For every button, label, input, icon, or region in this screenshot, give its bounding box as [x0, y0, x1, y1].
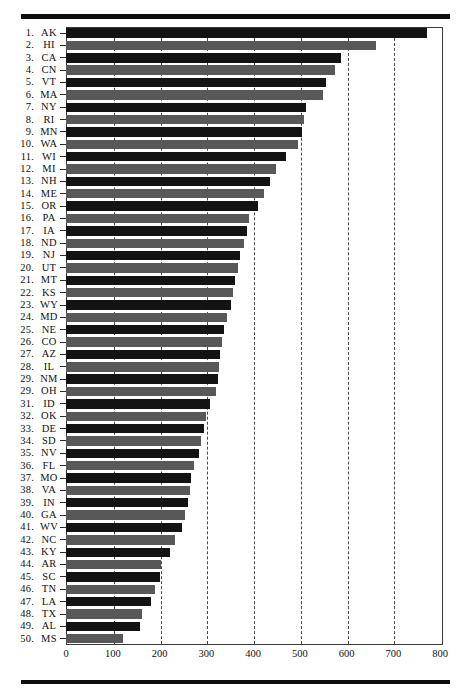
bar-row: 9.MN: [0, 126, 468, 138]
bar: [66, 585, 155, 594]
rank-label: 32.: [8, 410, 34, 422]
bar-row: 14.ME: [0, 188, 468, 200]
category-label: NJ: [38, 249, 60, 261]
bar: [66, 53, 341, 62]
bar-row: 29.NM: [0, 373, 468, 385]
rank-label: 23.: [8, 299, 34, 311]
rank-label: 24.: [8, 311, 34, 323]
bar-row: 45.SC: [0, 571, 468, 583]
bar: [66, 449, 199, 458]
x-axis-tick-labels: 0100200300400500600700800: [0, 647, 468, 665]
rank-label: 1.: [8, 27, 34, 39]
rank-label: 34.: [8, 435, 34, 447]
rank-label: 3.: [8, 52, 34, 64]
rank-label: 18.: [8, 237, 34, 249]
rank-label: 29.: [8, 373, 34, 385]
rank-label: 21.: [8, 274, 34, 286]
x-tick-label-100: 100: [93, 647, 133, 661]
category-label: ID: [38, 398, 60, 410]
bar-row: 5.VT: [0, 76, 468, 88]
bar-row: 48.TX: [0, 608, 468, 620]
x-tick-label-200: 200: [140, 647, 180, 661]
rank-label: 36.: [8, 460, 34, 472]
rank-label: 10.: [8, 138, 34, 150]
bar-rows-group: 1.AK2.HI3.CA4.CN5.VT6.MA7.NY8.RI9.MN10.W…: [0, 27, 468, 645]
bar-row: 1.AK: [0, 27, 468, 39]
rank-label: 33.: [8, 423, 34, 435]
bar-row: 20.UT: [0, 262, 468, 274]
bar: [66, 127, 302, 136]
bar-row: 50.MS: [0, 633, 468, 645]
category-label: UT: [38, 262, 60, 274]
category-label: MN: [38, 126, 60, 138]
rank-label: 5.: [8, 76, 34, 88]
bar: [66, 300, 231, 309]
category-label: OK: [38, 410, 60, 422]
bar-row: 35.NV: [0, 447, 468, 459]
bar: [66, 325, 224, 334]
bar-row: 29.OH: [0, 385, 468, 397]
rank-label: 25.: [8, 324, 34, 336]
bar-row: 11.WI: [0, 151, 468, 163]
bar: [66, 28, 427, 37]
category-label: SC: [38, 571, 60, 583]
rank-label: 42.: [8, 534, 34, 546]
top-horizontal-rule: [21, 14, 450, 19]
bar: [66, 65, 335, 74]
bar: [66, 288, 233, 297]
category-label: HI: [38, 39, 60, 51]
bar-row: 15.OR: [0, 200, 468, 212]
bar: [66, 461, 194, 470]
bar-row: 17.IA: [0, 225, 468, 237]
category-label: AK: [38, 27, 60, 39]
bar: [66, 362, 219, 371]
bar-row: 19.NJ: [0, 249, 468, 261]
rank-label: 40.: [8, 509, 34, 521]
bar-row: 12.MI: [0, 163, 468, 175]
bar-row: 46.TN: [0, 583, 468, 595]
bar: [66, 412, 206, 421]
bar: [66, 78, 326, 87]
bar-row: 27.AZ: [0, 348, 468, 360]
category-label: WY: [38, 299, 60, 311]
bar: [66, 177, 270, 186]
bar-row: 44.AR: [0, 558, 468, 570]
bar: [66, 313, 227, 322]
rank-label: 46.: [8, 583, 34, 595]
rank-label: 28.: [8, 361, 34, 373]
bar-row: 13.NH: [0, 175, 468, 187]
rank-label: 44.: [8, 558, 34, 570]
bar: [66, 115, 304, 124]
bar-row: 34.SD: [0, 435, 468, 447]
rank-label: 43.: [8, 546, 34, 558]
rank-label: 35.: [8, 447, 34, 459]
bar: [66, 201, 258, 210]
category-label: ME: [38, 188, 60, 200]
bar: [66, 350, 220, 359]
bar-row: 41.WV: [0, 521, 468, 533]
category-label: LA: [38, 596, 60, 608]
rank-label: 38.: [8, 484, 34, 496]
bar-row: 33.DE: [0, 423, 468, 435]
bottom-horizontal-rule: [21, 680, 450, 684]
rank-label: 13.: [8, 175, 34, 187]
category-label: NY: [38, 101, 60, 113]
bar: [66, 152, 286, 161]
category-label: MS: [38, 633, 60, 645]
category-label: KY: [38, 546, 60, 558]
bar: [66, 263, 238, 272]
category-label: MA: [38, 89, 60, 101]
category-label: CO: [38, 336, 60, 348]
category-label: NH: [38, 175, 60, 187]
bar-row: 43.KY: [0, 546, 468, 558]
bar-row: 8.RI: [0, 114, 468, 126]
bar-row: 36.FL: [0, 460, 468, 472]
bar-row: 10.WA: [0, 138, 468, 150]
bar: [66, 214, 249, 223]
rank-label: 39.: [8, 497, 34, 509]
category-label: PA: [38, 212, 60, 224]
bar-row: 24.MD: [0, 311, 468, 323]
bar-row: 6.MA: [0, 89, 468, 101]
bar-row: 37.MO: [0, 472, 468, 484]
bar-row: 26.CO: [0, 336, 468, 348]
